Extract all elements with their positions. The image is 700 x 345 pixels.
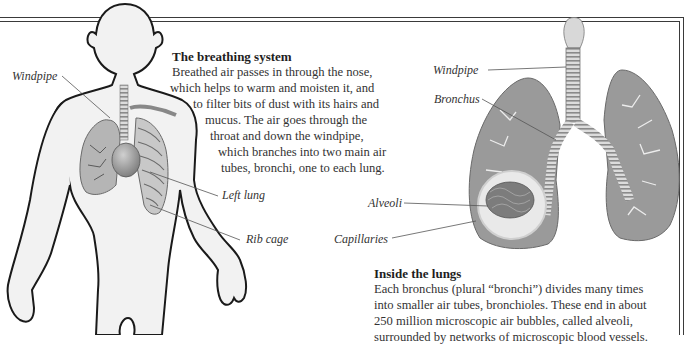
breathing-system-text-line: Breathed air passes in through the nose, [172, 65, 372, 80]
inside-lungs-text-line: surrounded by networks of microscopic bl… [374, 330, 648, 345]
label-left-lung: Left lung [222, 188, 265, 203]
inside-lungs-text-line: into smaller air tubes, bronchioles. The… [374, 298, 647, 313]
leader-line-windpipe-right [488, 67, 566, 70]
breathing-system-text-line: tubes, bronchi, one to each lung. [221, 161, 385, 176]
breathing-system-heading: The breathing system [172, 49, 292, 65]
label-alveoli: Alveoli [368, 196, 402, 211]
breathing-system-text-line: throat and down the windpipe, [210, 129, 364, 144]
inside-lungs-heading: Inside the lungs [374, 266, 461, 282]
breathing-system-text-line: mucus. The air goes through the [205, 113, 367, 128]
inside-lungs-text-line: 250 million microscopic air bubbles, cal… [374, 314, 633, 329]
breathing-system-text-line: to filter bits of dust with its hairs an… [193, 97, 379, 112]
label-bronchus: Bronchus [434, 92, 480, 107]
label-windpipe: Windpipe [12, 69, 57, 84]
label-rib-cage: Rib cage [246, 232, 288, 247]
breathing-system-text-line: which helps to warm and moisten it, and [170, 81, 374, 96]
label-capillaries: Capillaries [334, 232, 388, 247]
label-windpipe-lungs: Windpipe [433, 63, 478, 78]
inside-lungs-text-line: Each bronchus (plural “bronchi”) divides… [374, 282, 643, 297]
lungs-illustration [469, 18, 679, 249]
leader-line-capillaries [392, 221, 476, 238]
breathing-system-text-line: which branches into two main air [218, 145, 386, 160]
